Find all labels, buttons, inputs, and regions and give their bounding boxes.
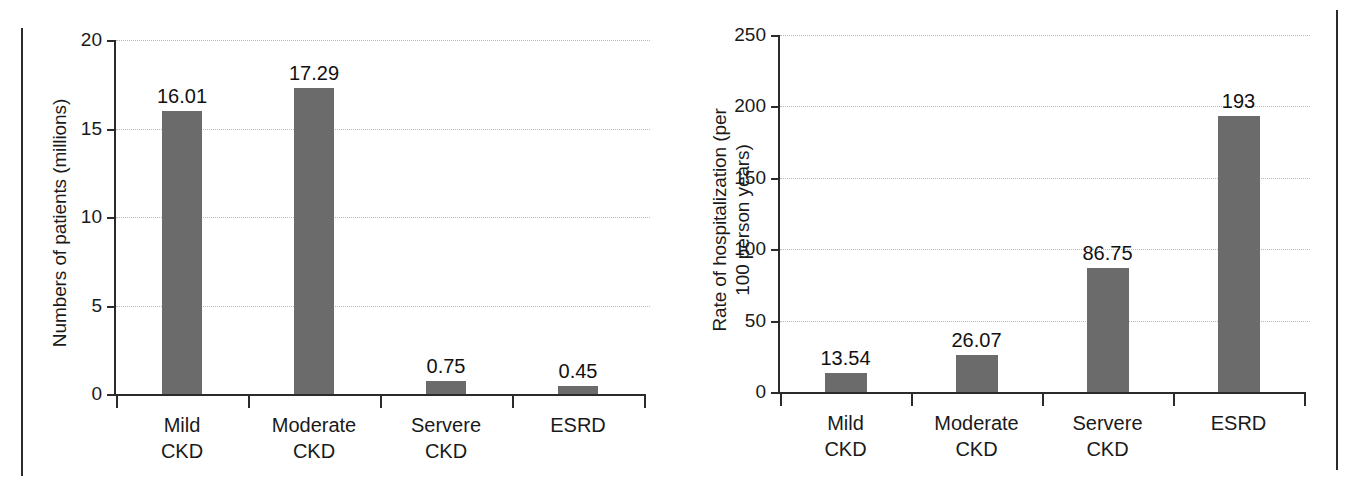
- x-axis-tick: [1173, 392, 1175, 406]
- bar-value-label: 13.54: [820, 347, 870, 373]
- y-axis-tick: [107, 40, 116, 42]
- x-axis-tick: [380, 394, 382, 408]
- y-axis-title: Numbers of patients (millions): [48, 58, 71, 388]
- page-right-border-rule: [1336, 10, 1338, 470]
- bar[interactable]: [294, 88, 334, 394]
- patients-chart: Numbers of patients (millions) 051015201…: [22, 0, 662, 483]
- y-axis-tick: [771, 321, 780, 323]
- y-axis-tick: [107, 394, 116, 396]
- hospitalization-chart: Rate of hospitalization (per 100 person …: [690, 0, 1315, 483]
- x-axis-category-label: ESRD: [550, 412, 606, 438]
- bar-value-label: 16.01: [157, 85, 207, 111]
- x-axis-category-label: Servere CKD: [411, 412, 481, 464]
- figure-page: Numbers of patients (millions) 051015201…: [0, 0, 1351, 483]
- y-axis-label: 0: [755, 381, 766, 403]
- y-axis-tick: [771, 106, 780, 108]
- x-axis-category-label: Servere CKD: [1072, 410, 1142, 462]
- y-axis-label: 15: [81, 118, 102, 140]
- bar-value-label: 0.75: [427, 355, 466, 381]
- gridline: [780, 35, 1310, 36]
- y-axis-label: 200: [734, 95, 766, 117]
- x-axis-tick: [644, 394, 646, 408]
- y-axis-label: 0: [91, 383, 102, 405]
- y-axis-tick: [107, 306, 116, 308]
- x-axis-tick: [116, 394, 118, 408]
- x-axis-tick: [1042, 392, 1044, 406]
- y-axis-label: 20: [81, 29, 102, 51]
- bar[interactable]: [426, 381, 466, 394]
- gridline: [116, 40, 650, 41]
- x-axis-tick: [248, 394, 250, 408]
- bar[interactable]: [825, 373, 867, 392]
- x-axis-category-label: Moderate CKD: [272, 412, 357, 464]
- y-axis-label: 50: [745, 310, 766, 332]
- y-axis-tick: [771, 178, 780, 180]
- y-axis-label: 150: [734, 167, 766, 189]
- x-axis-category-label: Moderate CKD: [934, 410, 1019, 462]
- y-axis-tick: [107, 129, 116, 131]
- bar[interactable]: [956, 355, 998, 392]
- x-axis-category-label: ESRD: [1211, 410, 1267, 436]
- bar-value-label: 193: [1222, 90, 1255, 116]
- bar[interactable]: [558, 386, 598, 394]
- y-axis-tick: [107, 217, 116, 219]
- y-axis-label: 10: [81, 206, 102, 228]
- bar-value-label: 26.07: [951, 329, 1001, 355]
- y-axis-label: 100: [734, 238, 766, 260]
- bar-value-label: 0.45: [559, 360, 598, 386]
- x-axis-tick: [1304, 392, 1306, 406]
- plot-area: 05010015020025013.54Mild CKD26.07Moderat…: [778, 35, 1304, 394]
- y-axis-label: 5: [91, 295, 102, 317]
- bar-value-label: 86.75: [1082, 242, 1132, 268]
- bar[interactable]: [1218, 116, 1260, 392]
- plot-area: 0510152016.01Mild CKD17.29Moderate CKD0.…: [114, 40, 644, 396]
- y-axis-tick: [771, 392, 780, 394]
- x-axis-category-label: Mild CKD: [161, 412, 203, 464]
- bar-value-label: 17.29: [289, 62, 339, 88]
- bar[interactable]: [162, 111, 202, 394]
- x-axis-tick: [780, 392, 782, 406]
- y-axis-label: 250: [734, 24, 766, 46]
- y-axis-tick: [771, 249, 780, 251]
- x-axis-category-label: Mild CKD: [824, 410, 866, 462]
- y-axis-title: Rate of hospitalization (per 100 person …: [708, 40, 754, 400]
- x-axis-tick: [911, 392, 913, 406]
- bar[interactable]: [1087, 268, 1129, 392]
- x-axis-tick: [512, 394, 514, 408]
- y-axis-tick: [771, 35, 780, 37]
